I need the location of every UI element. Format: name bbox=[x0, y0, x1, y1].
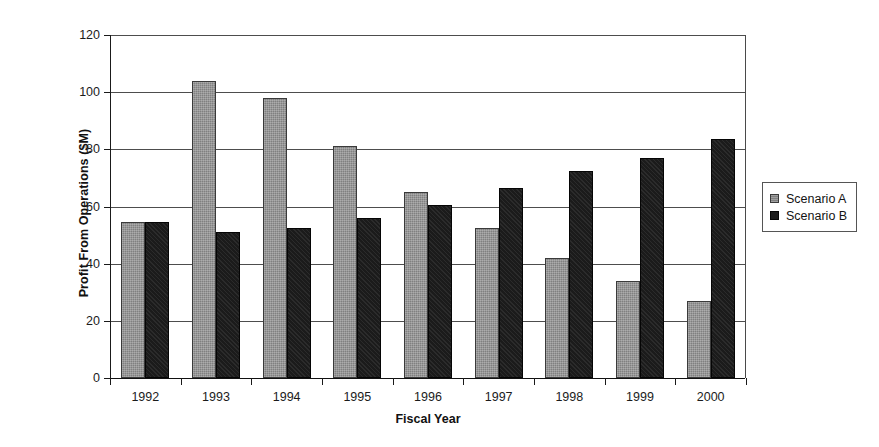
x-axis-tick-label: 1997 bbox=[464, 390, 534, 404]
bars-layer bbox=[110, 35, 746, 378]
legend-item: Scenario A bbox=[770, 190, 847, 207]
bar bbox=[711, 139, 735, 378]
bar-group bbox=[181, 35, 252, 378]
x-axis-tick-mark bbox=[251, 378, 252, 385]
bar-chart: Profit From Operations ($M) 020406080100… bbox=[0, 0, 879, 447]
x-axis-tick-mark bbox=[746, 378, 747, 385]
bar bbox=[569, 171, 593, 378]
series-b-swatch-icon bbox=[770, 211, 779, 220]
bar bbox=[616, 281, 640, 378]
y-axis-tick-label: 0 bbox=[60, 371, 100, 385]
bar-group bbox=[675, 35, 746, 378]
x-axis-tick-label: 2000 bbox=[676, 390, 746, 404]
bar bbox=[687, 301, 711, 378]
bar bbox=[121, 222, 145, 378]
bar bbox=[545, 258, 569, 378]
x-axis-tick-mark bbox=[534, 378, 535, 385]
x-axis-tick-label: 1992 bbox=[110, 390, 180, 404]
bar bbox=[192, 81, 216, 378]
bar bbox=[216, 232, 240, 378]
bar-group bbox=[393, 35, 464, 378]
x-axis-title: Fiscal Year bbox=[110, 412, 746, 426]
bar bbox=[404, 192, 428, 378]
y-axis-tick-label: 20 bbox=[60, 314, 100, 328]
bar bbox=[333, 146, 357, 378]
gridline bbox=[111, 378, 745, 379]
y-axis-tick-label: 120 bbox=[60, 28, 100, 42]
legend-label-series-b: Scenario B bbox=[786, 209, 847, 223]
legend: Scenario A Scenario B bbox=[762, 182, 857, 232]
bar-group bbox=[534, 35, 605, 378]
x-axis-tick-label: 1998 bbox=[534, 390, 604, 404]
x-axis-tick-mark bbox=[322, 378, 323, 385]
bar-group bbox=[110, 35, 181, 378]
bar-group bbox=[463, 35, 534, 378]
bar bbox=[475, 228, 499, 378]
y-axis-tick-label: 60 bbox=[60, 200, 100, 214]
series-a-swatch-icon bbox=[770, 194, 779, 203]
x-axis-tick-mark bbox=[605, 378, 606, 385]
x-axis-tick-label: 1999 bbox=[605, 390, 675, 404]
x-axis-tick-label: 1996 bbox=[393, 390, 463, 404]
y-axis-tick-label: 80 bbox=[60, 142, 100, 156]
bar-group bbox=[322, 35, 393, 378]
bar bbox=[640, 158, 664, 378]
bar bbox=[357, 218, 381, 378]
x-axis-tick-mark bbox=[393, 378, 394, 385]
x-axis-tick-label: 1995 bbox=[322, 390, 392, 404]
x-axis-tick-mark bbox=[181, 378, 182, 385]
y-axis-tick-label: 40 bbox=[60, 257, 100, 271]
x-axis-tick-label: 1993 bbox=[181, 390, 251, 404]
x-axis-tick-mark bbox=[675, 378, 676, 385]
legend-label-series-a: Scenario A bbox=[786, 192, 846, 206]
x-axis-tick-mark bbox=[463, 378, 464, 385]
bar bbox=[499, 188, 523, 378]
bar-group bbox=[605, 35, 676, 378]
bar bbox=[287, 228, 311, 378]
bar bbox=[263, 98, 287, 378]
bar-group bbox=[251, 35, 322, 378]
bar bbox=[428, 205, 452, 378]
x-axis-tick-label: 1994 bbox=[252, 390, 322, 404]
bar bbox=[145, 222, 169, 378]
y-axis-tick-label: 100 bbox=[60, 85, 100, 99]
x-axis-tick-mark bbox=[110, 378, 111, 385]
legend-item: Scenario B bbox=[770, 207, 847, 224]
